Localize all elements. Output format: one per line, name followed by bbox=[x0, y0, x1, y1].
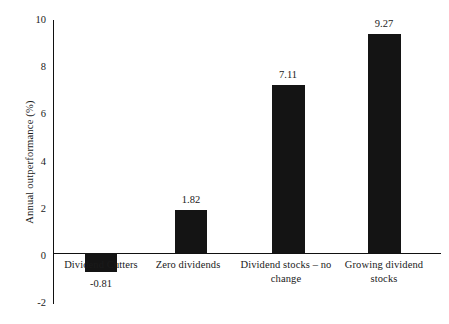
y-tick-label-4: 4 bbox=[0, 157, 46, 168]
bar-value-growing-dividend-stocks: 9.27 bbox=[352, 19, 416, 30]
bar-value-dividend-cutters: -0.81 bbox=[69, 279, 133, 290]
category-label-growing-dividend-stocks-line1: Growing dividend bbox=[334, 258, 434, 272]
category-label-zero-dividends: Zero dividends bbox=[138, 258, 238, 272]
y-tick-label-0: 0 bbox=[0, 251, 46, 262]
category-label-zero-dividends-line1: Zero dividends bbox=[138, 258, 238, 272]
y-tick-label-neg2: -2 bbox=[0, 298, 46, 309]
bar-chart: Annual outperformance (%) 10 8 6 4 2 0 -… bbox=[0, 0, 449, 324]
y-tick-label-6: 6 bbox=[0, 109, 46, 120]
y-tick-label-2: 2 bbox=[0, 204, 46, 215]
category-label-dividend-stocks-no-change-line2: change bbox=[236, 272, 336, 286]
category-label-dividend-stocks-no-change-line1: Dividend stocks – no bbox=[236, 258, 336, 272]
bar-value-dividend-stocks-no-change: 7.11 bbox=[256, 70, 320, 81]
category-label-dividend-cutters-line1: Dividend Cutters bbox=[51, 258, 151, 272]
bar-zero-dividends[interactable] bbox=[175, 210, 207, 253]
bar-dividend-stocks-no-change[interactable] bbox=[272, 85, 305, 253]
category-label-dividend-stocks-no-change: Dividend stocks – no change bbox=[236, 258, 336, 285]
y-tick-label-10: 10 bbox=[0, 15, 46, 26]
bar-growing-dividend-stocks[interactable] bbox=[368, 34, 401, 253]
category-label-growing-dividend-stocks: Growing dividend stocks bbox=[334, 258, 434, 285]
category-label-growing-dividend-stocks-line2: stocks bbox=[334, 272, 434, 286]
bar-value-zero-dividends: 1.82 bbox=[159, 195, 223, 206]
y-tick-label-8: 8 bbox=[0, 62, 46, 73]
category-label-dividend-cutters: Dividend Cutters bbox=[51, 258, 151, 272]
